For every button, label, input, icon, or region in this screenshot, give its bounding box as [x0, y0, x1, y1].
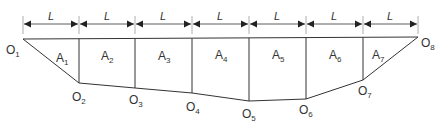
spacing-label: L [160, 10, 166, 22]
spacing-label: L [104, 10, 110, 22]
spacing-label: L [387, 10, 393, 22]
point-label-o2: O2 [72, 90, 86, 106]
area-division-diagram: L L L L L L L A1 A2 A3 A4 A5 A6 A7 O1 O2… [0, 0, 445, 125]
point-label-o6: O6 [299, 103, 313, 119]
area-label-a1: A1 [56, 51, 69, 67]
spacing-label: L [274, 10, 280, 22]
ordinate-lines [79, 37, 363, 101]
point-label-o1: O1 [6, 43, 20, 59]
point-label-o8: O8 [421, 36, 435, 52]
spacing-label: L [48, 10, 54, 22]
point-label-o3: O3 [129, 93, 143, 109]
area-label-a5: A5 [272, 48, 285, 64]
area-label-a3: A3 [158, 49, 171, 65]
point-label-o4: O4 [186, 100, 200, 116]
spacing-labels: L L L L L L L [48, 10, 393, 22]
area-label-a4: A4 [215, 48, 228, 64]
area-label-a7: A7 [372, 48, 385, 64]
point-label-o7: O7 [358, 84, 372, 100]
spacing-label: L [217, 10, 223, 22]
spacing-label: L [331, 10, 337, 22]
area-label-a6: A6 [329, 48, 342, 64]
area-label-a2: A2 [101, 49, 114, 65]
point-label-o5: O5 [242, 107, 256, 123]
area-labels: A1 A2 A3 A4 A5 A6 A7 [56, 48, 385, 67]
